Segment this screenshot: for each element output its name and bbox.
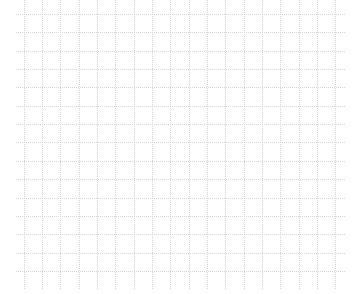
- dotted-grid: [0, 0, 354, 294]
